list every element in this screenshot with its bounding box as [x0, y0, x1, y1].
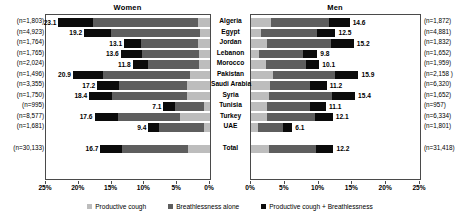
bar-segment: [310, 102, 326, 111]
bar-segment: [251, 71, 273, 80]
bar-value-label: 11.2: [330, 81, 342, 91]
category-label: UAE: [211, 121, 250, 132]
bar-segment: [175, 102, 205, 111]
chart-legend: Productive coughBreathlessness aloneProd…: [0, 203, 460, 210]
bar-value-label: 20.9: [58, 70, 71, 80]
bar-value-label: 13.1: [109, 39, 122, 49]
bar-row: 15.9: [251, 70, 420, 81]
bar-segment: [251, 29, 261, 38]
bar-segment: [259, 50, 303, 59]
sample-size-label-men: (n=4,881): [424, 27, 460, 38]
bar-segment: [251, 18, 271, 27]
category-label: Pakistan: [211, 69, 250, 80]
category-label: Algeria: [211, 16, 250, 27]
bar-row: 19.2: [46, 28, 210, 39]
stacked-bar-men: [251, 18, 350, 27]
bar-segment: [200, 29, 210, 38]
bar-row: 17.2: [46, 80, 210, 91]
sample-size-label-women: (n=30,133): [0, 143, 44, 154]
bar-value-label: 19.2: [69, 28, 82, 38]
bar-segment: [199, 60, 210, 69]
legend-swatch-icon: [168, 204, 173, 209]
stacked-bar-women: [73, 71, 210, 80]
stacked-bar-men: [251, 81, 327, 90]
stacked-bar-women: [124, 39, 210, 48]
category-label: Saudi Arabia: [211, 79, 250, 90]
bar-segment: [112, 92, 187, 101]
bar-segment: [198, 18, 210, 27]
bar-value-label: 15.2: [357, 39, 370, 49]
bar-segment: [89, 92, 111, 101]
bar-segment: [199, 50, 210, 59]
bar-row: 13.1: [46, 38, 210, 49]
bar-segment: [133, 60, 149, 69]
stacked-bar-women: [163, 102, 210, 111]
axis-tick-label: 20%: [379, 184, 392, 191]
legend-item: Breathlessness alone: [168, 203, 239, 210]
bar-segment: [163, 102, 174, 111]
bar-segment: [190, 71, 210, 80]
bar-segment: [103, 71, 190, 80]
axis-tick-label: 15%: [104, 184, 117, 191]
bar-segment: [73, 71, 103, 80]
chart-container: Women Men 23.119.213.113.611.820.917.218…: [0, 0, 460, 218]
bar-segment: [306, 60, 319, 69]
sample-size-label-women: (n=995): [0, 100, 44, 111]
sample-size-label-women: (n=1,750): [0, 90, 44, 101]
bar-segment: [118, 113, 180, 122]
bar-row: 15.2: [251, 38, 420, 49]
legend-label: Productive cough + Breathlessness: [269, 203, 373, 210]
stacked-bar-men: [251, 92, 355, 101]
sample-size-label-men: (n=1,872): [424, 16, 460, 27]
bar-value-label: 11.8: [118, 60, 130, 70]
legend-label: Breathlessness alone: [176, 203, 239, 210]
bar-segment: [97, 81, 119, 90]
bar-segment: [84, 29, 111, 38]
category-label: Turkey: [211, 111, 250, 122]
bar-row: 11.8: [46, 59, 210, 70]
bar-segment: [283, 123, 292, 132]
bar-row: 11.2: [251, 80, 420, 91]
bar-segment: [148, 123, 158, 132]
axis-tick-label: 10%: [137, 184, 150, 191]
bar-segment: [198, 39, 210, 48]
bar-segment: [335, 71, 358, 80]
bar-segment: [331, 39, 354, 48]
bar-segment: [251, 123, 258, 132]
bar-rows-women: 23.119.213.113.611.820.917.218.47.117.69…: [46, 15, 210, 179]
bar-value-label: 6.1: [295, 123, 304, 133]
bar-segment: [159, 123, 204, 132]
sample-size-label-men: (n=1,832): [424, 37, 460, 48]
stacked-bar-women: [133, 60, 210, 69]
bar-segment: [269, 92, 332, 101]
category-label: Jordan: [211, 37, 250, 48]
sample-size-label-women: (n=8,577): [0, 111, 44, 122]
legend-item: Productive cough: [87, 203, 146, 210]
bar-value-label: 12.2: [336, 144, 349, 154]
stacked-bar-women: [121, 50, 210, 59]
category-label: Morocco: [211, 58, 250, 69]
sample-size-label-men: (n=1,959): [424, 58, 460, 69]
category-label: Tunisia: [211, 100, 250, 111]
bar-value-label: 17.6: [80, 112, 93, 122]
bar-segment: [267, 113, 315, 122]
bar-segment: [251, 102, 267, 111]
bar-segment: [204, 123, 210, 132]
bar-segment: [121, 50, 143, 59]
stacked-bar-women: [58, 18, 210, 27]
sample-size-label-women: (n=1,765): [0, 48, 44, 59]
bar-segment: [303, 50, 317, 59]
bar-segment: [317, 29, 336, 38]
axis-tick-label: 15%: [345, 184, 358, 191]
bar-row: 6.1: [251, 122, 420, 133]
bar-value-label: 16.7: [86, 144, 99, 154]
bar-segment: [251, 39, 267, 48]
axis-tick-label: 0%: [204, 184, 214, 191]
bar-segment: [310, 81, 326, 90]
bar-segment: [204, 102, 210, 111]
stacked-bar-women: [148, 123, 210, 132]
bar-segment: [267, 39, 331, 48]
bar-segment: [271, 18, 330, 27]
bar-row: 9.4: [46, 122, 210, 133]
bar-row: 20.9: [46, 70, 210, 81]
